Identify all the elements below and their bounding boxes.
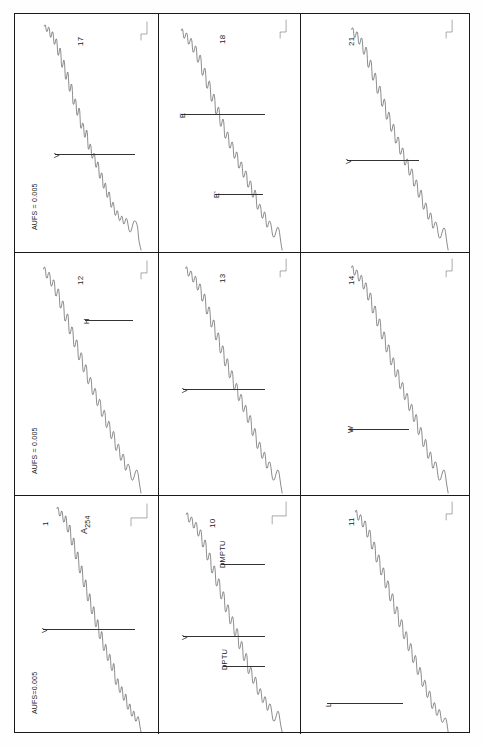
peak-label-v: V xyxy=(40,628,49,633)
panel-18: E E' 18 xyxy=(158,14,300,252)
peak-label-v: V xyxy=(344,159,353,164)
band-middle: H 12 AUFS = 0.005 V 13 xyxy=(15,252,469,495)
peak-label-h: H xyxy=(82,318,91,324)
sensitivity-label-middle: AUFS = 0.005 xyxy=(31,427,38,474)
panel-14: W 14 xyxy=(300,253,471,495)
panel-21: V 21 xyxy=(300,14,471,252)
peak-leader-v xyxy=(183,636,265,637)
peak-leader-v xyxy=(55,154,135,155)
peak-leader-v xyxy=(183,389,265,390)
trace-14 xyxy=(301,253,471,495)
peak-leader-dptu xyxy=(223,666,265,667)
peak-label-v: V xyxy=(180,635,189,640)
panel-11: L 11 xyxy=(300,496,471,734)
panel-17: V 17 AUFS = 0.005 xyxy=(15,14,158,252)
panel-number-14: 14 xyxy=(347,276,356,285)
panel-13: V 13 xyxy=(158,253,300,495)
peak-leader-dmptu xyxy=(221,564,265,565)
peak-leader-v xyxy=(347,160,419,161)
band-top: V 17 AUFS = 0.005 E E' 18 xyxy=(15,14,469,252)
panel-number-21: 21 xyxy=(347,37,356,46)
trace-18 xyxy=(159,14,300,252)
trace-10 xyxy=(159,496,300,734)
peak-leader-l xyxy=(327,703,403,704)
axis-label-254: 254 xyxy=(84,516,91,528)
peak-label-v: V xyxy=(180,388,189,393)
panel-number-1: 1 xyxy=(41,521,50,526)
peak-label-l: L xyxy=(324,703,333,707)
axis-label-a: A xyxy=(79,528,89,534)
peak-label-e-prime: E' xyxy=(212,191,221,198)
peak-label-e: E xyxy=(178,113,187,118)
sensitivity-label-top: AUFS = 0.005 xyxy=(31,183,38,230)
panel-10: DMPTU V DPTU 10 xyxy=(158,496,300,734)
panel-12: H 12 AUFS = 0.005 xyxy=(15,253,158,495)
axis-label-a254: A254 xyxy=(79,516,91,534)
panel-1: V 1 A254 AUFS=0.005 xyxy=(15,496,158,734)
panel-number-10: 10 xyxy=(208,519,217,528)
peak-leader-v xyxy=(43,629,135,630)
chromatogram-figure: V 17 AUFS = 0.005 E E' 18 xyxy=(0,0,484,746)
peak-label-dptu: DPTU xyxy=(220,649,229,670)
peak-label-dmptu: DMPTU xyxy=(218,540,227,568)
peak-leader-e-prime xyxy=(215,194,263,195)
panel-number-12: 12 xyxy=(76,276,85,285)
trace-11 xyxy=(301,496,471,734)
panel-number-13: 13 xyxy=(218,274,227,283)
trace-13 xyxy=(159,253,300,495)
panel-number-17: 17 xyxy=(76,37,85,46)
panel-number-11: 11 xyxy=(347,517,356,526)
peak-leader-w xyxy=(349,429,409,430)
peak-leader-e xyxy=(181,114,265,115)
peak-label-w: W xyxy=(346,426,355,433)
trace-21 xyxy=(301,14,471,252)
figure-plate: V 17 AUFS = 0.005 E E' 18 xyxy=(14,13,470,733)
panel-number-18: 18 xyxy=(218,35,227,44)
sensitivity-label-bottom: AUFS=0.005 xyxy=(31,672,38,714)
band-bottom: V 1 A254 AUFS=0.005 DMPTU V xyxy=(15,495,469,734)
peak-label-v: V xyxy=(52,153,61,158)
peak-leader-h xyxy=(85,320,133,321)
